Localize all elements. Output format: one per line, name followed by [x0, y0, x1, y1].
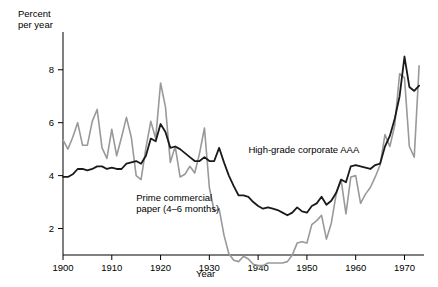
chart-container: Percent per year Year 246819001910192019… — [0, 0, 438, 287]
chart-annotation-0: High-grade corporate AAA — [248, 144, 360, 155]
x-tick-label: 1920 — [150, 262, 171, 273]
y-tick-label: 6 — [49, 117, 54, 128]
x-tick-label: 1960 — [345, 262, 366, 273]
y-tick-label: 4 — [49, 170, 54, 181]
x-tick-label: 1910 — [101, 262, 122, 273]
x-tick-label: 1900 — [52, 262, 73, 273]
chart-annotation-1: paper (4–6 months) — [136, 203, 219, 214]
x-tick-label: 1930 — [199, 262, 220, 273]
y-tick-label: 8 — [49, 64, 54, 75]
x-tick-label: 1970 — [394, 262, 415, 273]
series-line-0 — [63, 57, 419, 216]
chart-annotation-1: Prime commercial — [136, 192, 212, 203]
series-line-1 — [63, 66, 419, 266]
chart-plot: 246819001910192019301940195019601970High… — [0, 0, 438, 287]
y-tick-label: 2 — [49, 223, 54, 234]
x-tick-label: 1950 — [296, 262, 317, 273]
